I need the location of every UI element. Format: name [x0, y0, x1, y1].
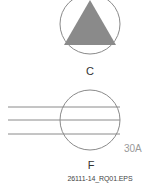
diagram-canvas [0, 0, 151, 183]
symbol-f [8, 90, 120, 150]
triangle-icon [64, 0, 116, 45]
angle-label: 30A [124, 144, 142, 154]
symbol-c-label: C [86, 66, 94, 77]
file-id-label: 26111-14_RQ01.EPS [68, 175, 133, 182]
symbol-f-label: F [88, 160, 95, 171]
symbol-c [60, 0, 120, 54]
